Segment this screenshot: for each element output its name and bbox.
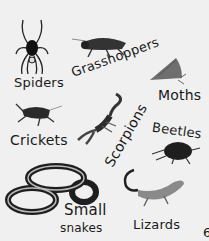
page-edge-char: 6 bbox=[203, 226, 209, 239]
label-lizards: Lizards bbox=[133, 218, 180, 231]
spider-icon bbox=[14, 18, 50, 74]
label-snakes: snakes bbox=[60, 222, 103, 234]
label-beetles: Beetles bbox=[151, 121, 202, 141]
cricket-icon bbox=[14, 102, 64, 126]
label-spiders: Spiders bbox=[14, 76, 64, 89]
lizard-icon bbox=[118, 168, 188, 208]
label-small: Small bbox=[64, 203, 107, 218]
moth-icon bbox=[148, 56, 188, 86]
beetle-icon bbox=[150, 140, 202, 164]
label-moths: Moths bbox=[158, 88, 201, 102]
label-crickets: Crickets bbox=[10, 133, 68, 147]
